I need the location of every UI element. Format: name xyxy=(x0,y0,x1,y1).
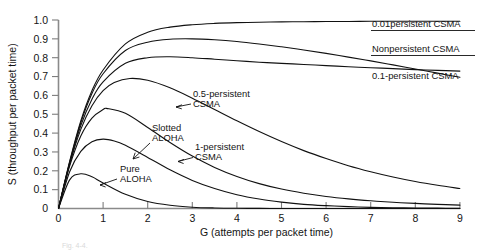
edge-label-text: 0.1-persistent CSMA xyxy=(372,70,459,81)
y-tick-label: 0.3 xyxy=(33,146,48,158)
y-tick-label: 0.6 xyxy=(33,89,48,101)
edge-label-0.01-persistent-csma: 0.01persistent CSMA xyxy=(371,18,475,31)
arrow-head xyxy=(178,159,184,163)
throughput-chart: 1.0 0.9 0.8 0.7 0.6 0.5 0.4 0.3 0.2 0.1 … xyxy=(0,0,484,250)
annotation-pure-aloha: Pure ALOHA xyxy=(100,163,153,187)
y-axis-title: S (throughput per packet time) xyxy=(6,43,18,185)
x-axis-title: G (attempts per packet time) xyxy=(200,226,333,238)
curve-nonpersistent-csma xyxy=(59,39,460,209)
y-tick-label: 0.2 xyxy=(33,165,48,177)
annotation-line-2: CSMA xyxy=(195,151,223,162)
figure-container: 1.0 0.9 0.8 0.7 0.6 0.5 0.4 0.3 0.2 0.1 … xyxy=(0,0,484,250)
curve-0.5-persistent-csma xyxy=(59,78,460,208)
annotation-line-2: CSMA xyxy=(193,98,221,109)
x-tick-label: 5 xyxy=(279,212,285,224)
y-tick-label: 0.1 xyxy=(33,183,48,195)
y-tick-label: 0.7 xyxy=(33,70,48,82)
curve-1-persistent-csma xyxy=(59,108,460,208)
x-tick-label: 7 xyxy=(368,212,374,224)
annotation-line-2: ALOHA xyxy=(120,173,153,184)
x-tick-label: 6 xyxy=(323,212,329,224)
y-tick-label-zero: 0 xyxy=(42,202,48,214)
y-tick-label: 0.4 xyxy=(33,127,48,139)
x-tick-label: 4 xyxy=(234,212,240,224)
x-tick-labels-group: 0 1 2 3 4 5 6 7 8 9 xyxy=(56,212,463,224)
y-tick-label: 0.8 xyxy=(33,52,48,64)
edge-label-text: 0.01persistent CSMA xyxy=(372,18,461,29)
y-tick-labels-group: 1.0 0.9 0.8 0.7 0.6 0.5 0.4 0.3 0.2 0.1 … xyxy=(33,14,48,215)
edge-label-0.1-persistent-csma: 0.1-persistent CSMA xyxy=(372,70,459,81)
x-tick-label: 0 xyxy=(56,212,62,224)
edge-label-nonpersistent-csma: Nonpersistent CSMA xyxy=(371,43,475,56)
y-tick-label: 1.0 xyxy=(33,14,48,26)
x-tick-label: 1 xyxy=(100,212,106,224)
x-tick-label: 9 xyxy=(457,212,463,224)
x-tick-label: 2 xyxy=(145,212,151,224)
edge-label-text: Nonpersistent CSMA xyxy=(372,43,460,54)
x-tick-label: 3 xyxy=(189,212,195,224)
annotation-line-2: ALOHA xyxy=(152,132,185,143)
annotation-1-persistent-csma: 1-persistent CSMA xyxy=(178,141,244,164)
y-ticks-group xyxy=(52,20,59,190)
y-tick-label: 0.5 xyxy=(33,108,48,120)
y-tick-label: 0.9 xyxy=(33,33,48,45)
curve-slotted-aloha xyxy=(59,139,460,208)
figure-caption: Fig. 4-4. xyxy=(62,242,88,250)
x-tick-label: 8 xyxy=(412,212,418,224)
annotation-0.5-persistent-csma: 0.5-persistent CSMA xyxy=(176,88,250,109)
